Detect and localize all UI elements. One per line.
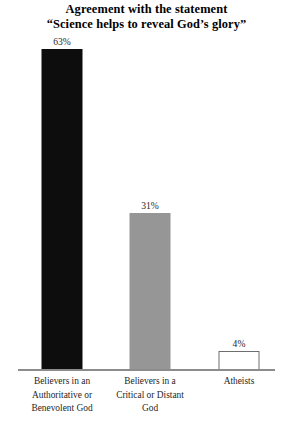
plot-area: 63% 31% 4% (0, 0, 293, 371)
category-label-0-line-3: Benevolent God (14, 402, 110, 416)
category-label-0-line-2: Authoritative or (14, 389, 110, 403)
x-axis-category-labels: Believers in an Authoritative or Benevol… (0, 375, 293, 431)
bar-value-label-0: 63% (53, 36, 71, 47)
category-label-1-line-2: Critical or Distant (102, 389, 198, 403)
bar-chart: Agreement with the statement “Science he… (0, 0, 293, 431)
category-label-1-line-3: God (102, 402, 198, 416)
category-label-2-line-1: Atheists (191, 375, 287, 389)
x-axis-line (18, 369, 275, 371)
category-label-0-line-1: Believers in an (14, 375, 110, 389)
category-label-authoritative-benevolent: Believers in an Authoritative or Benevol… (14, 375, 110, 416)
bar-value-label-2: 4% (233, 338, 246, 349)
bar-atheists[interactable] (219, 351, 260, 371)
bar-wrap-1: 31% (106, 2, 194, 371)
bar-value-label-1: 31% (141, 200, 159, 211)
category-label-critical-distant: Believers in a Critical or Distant God (102, 375, 198, 416)
bar-critical-distant[interactable] (130, 213, 171, 371)
category-label-atheists: Atheists (191, 375, 287, 389)
bar-wrap-0: 63% (18, 2, 106, 371)
bar-wrap-2: 4% (195, 2, 283, 371)
bar-authoritative-benevolent[interactable] (42, 49, 83, 371)
category-label-1-line-1: Believers in a (102, 375, 198, 389)
